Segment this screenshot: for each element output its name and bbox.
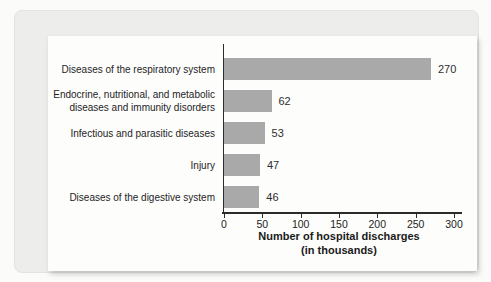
y-axis-line — [223, 44, 225, 214]
bar — [224, 122, 265, 144]
category-label: Injury — [191, 159, 215, 172]
x-axis-tick-label: 150 — [324, 218, 354, 230]
bar — [224, 58, 431, 80]
x-axis-tick-label: 100 — [286, 218, 316, 230]
x-axis-tick — [339, 214, 340, 218]
bar — [224, 154, 260, 176]
x-axis-tick-label: 0 — [209, 218, 239, 230]
x-axis-tick — [262, 214, 263, 218]
x-axis-title-line2: (in thousands) — [224, 244, 454, 257]
category-label: Infectious and parasitic diseases — [70, 127, 215, 140]
x-axis-line — [222, 212, 462, 214]
category-label: Diseases of the digestive system — [69, 191, 215, 204]
chart-panel: Diseases of the respiratory systemEndocr… — [48, 36, 477, 271]
figure-background: Diseases of the respiratory systemEndocr… — [0, 0, 491, 282]
value-label: 270 — [438, 63, 456, 76]
value-label: 62 — [279, 95, 291, 108]
bar — [224, 186, 259, 208]
x-axis-tick — [377, 214, 378, 218]
value-label: 46 — [266, 191, 278, 204]
value-label: 53 — [272, 127, 284, 140]
bar — [224, 90, 272, 112]
x-axis-tick — [416, 214, 417, 218]
x-axis-tick-label: 200 — [362, 218, 392, 230]
x-axis-tick — [301, 214, 302, 218]
x-axis-tick-label: 50 — [247, 218, 277, 230]
category-label: Diseases of the respiratory system — [62, 63, 215, 76]
x-axis-tick — [454, 214, 455, 218]
bar-chart: Diseases of the respiratory systemEndocr… — [48, 36, 477, 271]
value-label: 47 — [267, 159, 279, 172]
x-axis-tick — [224, 214, 225, 218]
x-axis-tick-label: 300 — [439, 218, 469, 230]
figure-card: Diseases of the respiratory systemEndocr… — [14, 10, 479, 273]
category-label: Endocrine, nutritional, and metabolicdis… — [53, 88, 215, 114]
x-axis-tick-label: 250 — [401, 218, 431, 230]
x-axis-title-line1: Number of hospital discharges — [224, 230, 454, 243]
